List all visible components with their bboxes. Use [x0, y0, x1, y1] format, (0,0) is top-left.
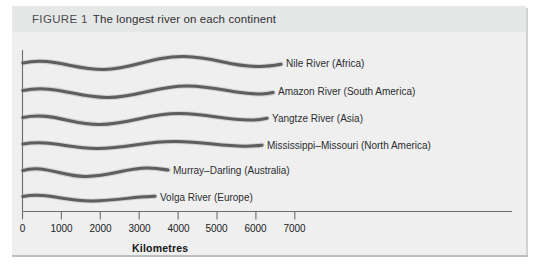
x-tick-label-3000: 3000	[120, 224, 159, 234]
river-label-volga: Volga River (Europe)	[160, 193, 253, 203]
figure-title-bar: FIGURE 1The longest river on each contin…	[12, 6, 526, 32]
river-line-nile	[23, 56, 281, 69]
river-label-mississippi-missouri: Mississippi–Missouri (North America)	[267, 141, 431, 151]
chart-plot-area: Nile River (Africa) Amazon River (South …	[12, 32, 526, 255]
x-tick-label-1000: 1000	[42, 224, 81, 234]
x-axis-title: Kilometres	[132, 243, 188, 254]
river-line-yangtze	[23, 113, 267, 124]
river-line-volga	[23, 195, 155, 201]
x-axis-ticks	[23, 212, 295, 220]
river-label-amazon: Amazon River (South America)	[278, 87, 415, 97]
x-tick-label-7000: 7000	[275, 224, 314, 234]
x-tick-label-6000: 6000	[236, 224, 275, 234]
figure-card: FIGURE 1The longest river on each contin…	[12, 6, 526, 255]
x-tick-label-2000: 2000	[81, 224, 120, 234]
page-title: FIGURE 1The longest river on each contin…	[32, 13, 276, 25]
figure-number: FIGURE 1	[32, 13, 88, 25]
river-line-amazon	[23, 86, 273, 98]
figure-caption: The longest river on each continent	[93, 13, 276, 25]
x-tick-label-5000: 5000	[197, 224, 236, 234]
river-label-murray-darling: Murray–Darling (Australia)	[173, 166, 290, 176]
river-line-mississippi-missouri	[23, 141, 262, 148]
river-label-nile: Nile River (Africa)	[286, 59, 364, 69]
river-label-yangtze: Yangtze River (Asia)	[272, 114, 363, 124]
river-line-murray-darling	[23, 168, 168, 177]
x-tick-label-4000: 4000	[159, 224, 198, 234]
x-tick-label-0: 0	[3, 224, 42, 234]
